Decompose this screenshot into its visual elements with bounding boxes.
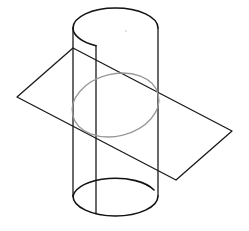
image-speck (125, 30, 127, 32)
cylinder-group (73, 8, 158, 216)
cylinder-top-back-arc (73, 8, 158, 28)
cylinder-bottom-back-arc (73, 178, 154, 196)
cutting-plane-group (17, 48, 232, 180)
cylinder-top-front-arc (73, 28, 96, 46)
intersection-ellipse-group (65, 64, 165, 145)
figure-canvas: Plane intersecting a cylinder Line drawi… (0, 0, 249, 231)
cylinder-plane-diagram: Plane intersecting a cylinder Line drawi… (0, 0, 249, 231)
cutting-plane-face (17, 48, 232, 180)
cylinder-bottom-front-arc (73, 196, 158, 216)
intersection-ellipse (65, 64, 165, 145)
